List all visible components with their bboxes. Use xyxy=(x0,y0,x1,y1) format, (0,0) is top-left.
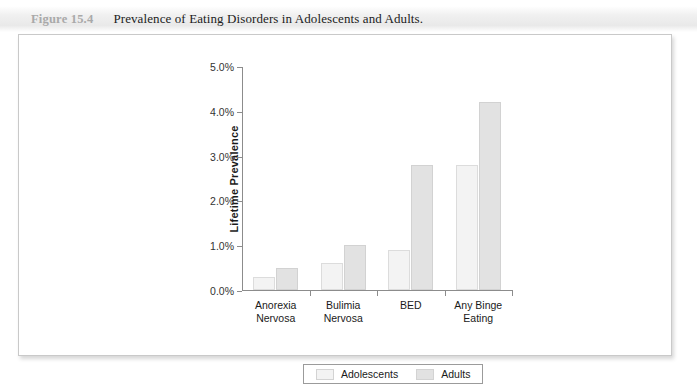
bar-group xyxy=(456,66,501,290)
bar-adults-anorexia-nervosa xyxy=(276,268,298,290)
y-tick-mark xyxy=(237,67,242,68)
figure-title: Prevalence of Eating Disorders in Adoles… xyxy=(113,11,423,27)
x-tick-mark xyxy=(310,291,311,296)
legend-label-adolescents: Adolescents xyxy=(341,368,398,380)
x-tick-mark xyxy=(377,291,378,296)
chart-legend: Adolescents Adults xyxy=(303,364,483,384)
x-tick-mark xyxy=(445,291,446,296)
bar-adults-bulimia-nervosa xyxy=(344,245,366,290)
bar-group xyxy=(253,66,298,290)
bar-adolescents-anorexia-nervosa xyxy=(253,277,275,290)
x-tick-mark xyxy=(512,291,513,296)
chart-panel: Lifetime Prevalence 0.0%1.0%2.0%3.0%4.0%… xyxy=(18,34,672,356)
x-category-label-line: Any Binge xyxy=(423,299,533,312)
legend-swatch-icon-adolescents xyxy=(316,369,334,380)
bar-group xyxy=(388,66,433,290)
x-category-label: Any BingeEating xyxy=(423,299,533,324)
y-tick-mark xyxy=(237,157,242,158)
y-tick-mark xyxy=(237,201,242,202)
bar-adolescents-any-binge-eating xyxy=(456,165,478,290)
y-tick-label: 5.0% xyxy=(210,61,234,73)
bar-adolescents-bulimia-nervosa xyxy=(321,263,343,290)
legend-swatch-icon-adults xyxy=(416,369,434,380)
x-category-label-line: Eating xyxy=(423,312,533,325)
figure-number: Figure 15.4 xyxy=(31,12,93,27)
y-tick-label: 0.0% xyxy=(210,285,234,297)
y-tick-label: 1.0% xyxy=(210,240,234,252)
y-tick-mark xyxy=(237,246,242,247)
y-tick-mark xyxy=(237,112,242,113)
y-tick-label: 4.0% xyxy=(210,106,234,118)
legend-entry-adults: Adults xyxy=(416,368,470,380)
x-category-label-line: Nervosa xyxy=(288,312,398,325)
bar-group xyxy=(321,66,366,290)
y-tick-mark xyxy=(237,291,242,292)
y-tick-label: 2.0% xyxy=(210,195,234,207)
bar-adults-bed xyxy=(411,165,433,290)
bar-adults-any-binge-eating xyxy=(479,102,501,290)
y-axis-line xyxy=(242,67,243,291)
plot-area: Lifetime Prevalence 0.0%1.0%2.0%3.0%4.0%… xyxy=(242,67,512,291)
figure-caption-bar: Figure 15.4 Prevalence of Eating Disorde… xyxy=(0,6,697,32)
legend-entry-adolescents: Adolescents xyxy=(316,368,398,380)
y-tick-label: 3.0% xyxy=(210,151,234,163)
y-axis-title: Lifetime Prevalence xyxy=(228,125,240,232)
legend-label-adults: Adults xyxy=(441,368,470,380)
bar-adolescents-bed xyxy=(388,250,410,290)
